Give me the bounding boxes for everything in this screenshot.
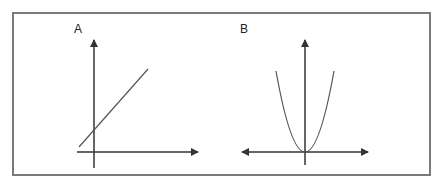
- panel-b: [242, 40, 368, 165]
- panel-a: [77, 40, 198, 168]
- diagram-canvas: [0, 0, 442, 188]
- panel-a-linear-line: [79, 69, 148, 147]
